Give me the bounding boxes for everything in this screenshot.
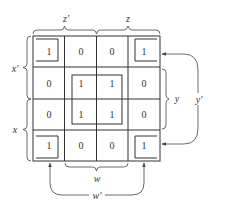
cell-r0c1: 0 — [79, 46, 84, 57]
brace-z-prime — [33, 26, 97, 34]
brace-x — [23, 99, 31, 161]
cell-r2c3: 0 — [142, 109, 147, 120]
top-braces — [33, 26, 160, 34]
label-y: y — [174, 93, 180, 104]
brace-x-prime — [23, 36, 31, 99]
cell-r1c1: 1 — [79, 78, 84, 89]
cell-r0c3: 1 — [142, 46, 147, 57]
left-braces — [23, 36, 31, 161]
cell-r0c2: 0 — [110, 46, 115, 57]
label-x: x — [12, 124, 18, 135]
brace-y — [162, 69, 169, 129]
cell-r1c2: 1 — [110, 78, 115, 89]
cell-r2c0: 0 — [47, 109, 52, 120]
cell-r1c3: 0 — [142, 78, 147, 89]
right-brace — [162, 69, 169, 129]
label-x-prime: x' — [11, 63, 19, 74]
karnaugh-map: 1 0 0 1 0 1 1 0 0 1 1 0 1 0 0 1 z' z x' … — [0, 0, 231, 211]
brace-z — [97, 26, 161, 34]
cell-r3c2: 0 — [110, 140, 115, 151]
label-z-prime: z' — [62, 13, 70, 24]
cell-r2c1: 1 — [79, 109, 84, 120]
cell-r0c0: 1 — [47, 46, 52, 57]
bottom-brace — [65, 163, 128, 171]
label-z: z — [125, 13, 130, 24]
cell-r3c1: 0 — [79, 140, 84, 151]
cell-r2c2: 1 — [110, 109, 115, 120]
cell-r3c0: 1 — [47, 140, 52, 151]
cell-r3c3: 1 — [142, 140, 147, 151]
label-w: w — [94, 173, 101, 184]
label-y-prime: y' — [195, 94, 203, 105]
label-w-prime: w' — [93, 190, 103, 201]
brace-w — [65, 163, 128, 171]
cell-r1c0: 0 — [47, 78, 52, 89]
